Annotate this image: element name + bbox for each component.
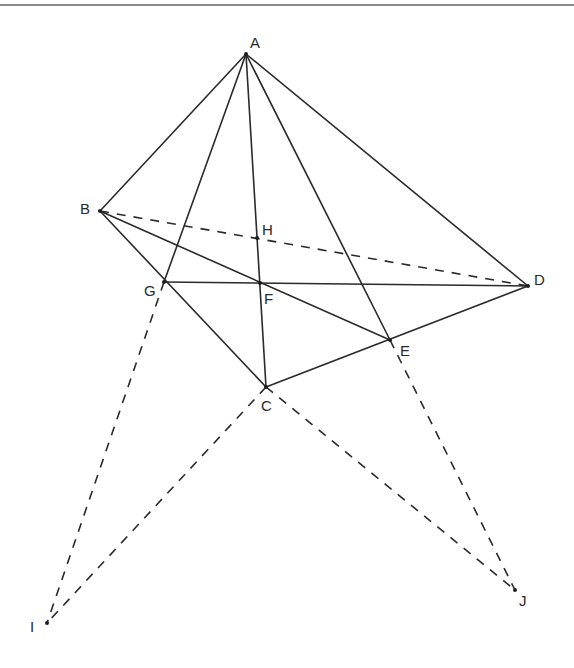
label-J: J xyxy=(519,592,527,609)
segment-BD xyxy=(100,211,528,286)
geometry-figure: A B C D E F G H I J xyxy=(0,0,574,668)
segment-CI xyxy=(47,387,266,623)
label-A: A xyxy=(250,34,260,51)
label-D: D xyxy=(534,271,545,288)
label-I: I xyxy=(30,618,34,635)
label-G: G xyxy=(144,282,156,299)
point-B xyxy=(98,209,102,213)
point-H xyxy=(255,236,259,240)
segment-AG xyxy=(164,54,246,282)
segment-BE xyxy=(100,211,390,340)
point-C xyxy=(264,385,268,389)
vertex-labels: A B C D E F G H I J xyxy=(30,34,545,635)
point-E xyxy=(388,338,392,342)
point-J xyxy=(513,588,517,592)
segment-EJ xyxy=(390,340,515,590)
segment-BC xyxy=(100,211,266,387)
label-E: E xyxy=(400,342,410,359)
segment-GI xyxy=(47,282,164,623)
point-D xyxy=(526,284,530,288)
label-B: B xyxy=(80,200,90,217)
label-C: C xyxy=(261,397,272,414)
dashed-edges xyxy=(47,211,528,623)
segment-AD xyxy=(246,54,528,286)
point-I xyxy=(45,621,49,625)
point-A xyxy=(244,52,248,56)
solid-edges xyxy=(100,54,528,387)
label-F: F xyxy=(264,290,273,307)
segment-AB xyxy=(100,54,246,211)
point-F xyxy=(258,281,262,285)
point-G xyxy=(162,280,166,284)
segment-CD xyxy=(266,286,528,387)
label-H: H xyxy=(262,221,273,238)
segment-GD xyxy=(164,282,528,286)
segment-CJ xyxy=(266,387,515,590)
